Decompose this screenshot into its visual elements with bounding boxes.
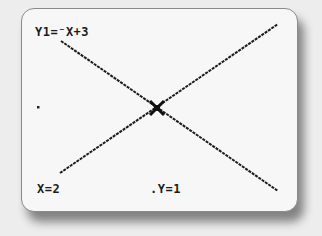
line-y1 (61, 41, 278, 191)
equation-label: Y1=⁻X+3 (35, 26, 89, 38)
axis-dot (37, 106, 40, 109)
line-y2 (60, 24, 278, 173)
y-readout: .Y=1 (150, 183, 181, 195)
calculator-graph-view: Y1=⁻X+3 X=2 .Y=1 (0, 0, 322, 236)
trace-cursor-icon (150, 101, 164, 115)
x-readout: X=2 (37, 183, 60, 195)
